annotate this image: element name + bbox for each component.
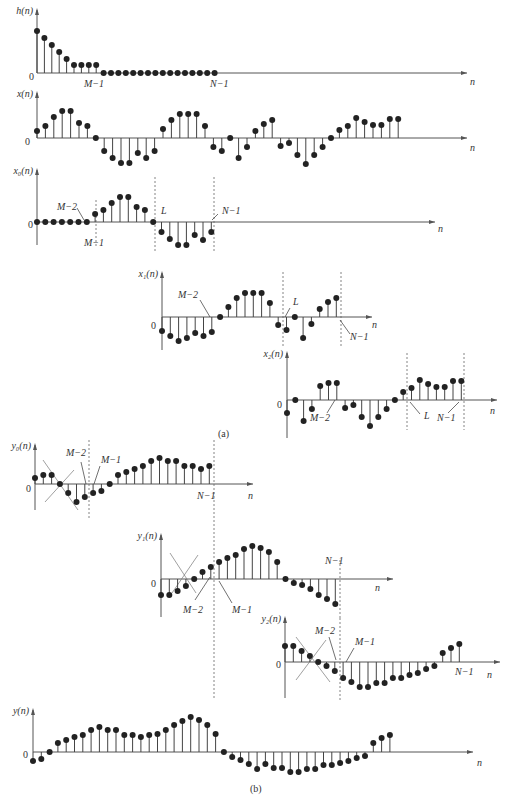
stem-marker	[152, 148, 158, 154]
stem-marker	[74, 499, 80, 505]
stem-marker	[197, 70, 203, 76]
stem-marker	[138, 734, 144, 740]
index-label: N−1	[196, 490, 215, 501]
stem-marker	[208, 229, 214, 235]
stem-marker	[201, 333, 207, 339]
stem-marker	[417, 377, 423, 383]
stem-marker	[234, 295, 240, 301]
stem-marker	[88, 727, 94, 733]
leader-line	[346, 648, 354, 662]
x-axis-label: n	[372, 319, 377, 330]
stem-marker	[118, 160, 124, 166]
stem-marker	[192, 232, 198, 238]
stem-marker	[317, 383, 323, 389]
origin-label: 0	[277, 399, 282, 410]
stem-marker	[56, 49, 62, 55]
stem-marker	[196, 717, 202, 723]
index-label: L	[292, 296, 299, 307]
stem-marker	[425, 381, 431, 387]
stem-marker	[300, 335, 306, 341]
plot-h: h(n)0nM−1N−1	[16, 5, 475, 89]
stem-marker	[448, 645, 454, 651]
y-axis-arrow-icon	[283, 616, 287, 623]
stem-marker	[370, 740, 376, 746]
x-axis-arrow-icon	[461, 71, 467, 75]
stem-marker	[249, 543, 255, 549]
stem-marker	[51, 219, 57, 225]
stem-marker	[93, 135, 99, 141]
stem-marker	[167, 236, 173, 242]
stem-marker	[304, 766, 310, 772]
stem-marker	[390, 675, 396, 681]
stem-marker	[271, 765, 277, 771]
stem-marker	[216, 559, 222, 565]
stem-marker	[117, 194, 123, 200]
index-label: M−2	[177, 289, 198, 300]
stem-marker	[299, 648, 305, 654]
stem-marker	[252, 128, 258, 134]
y-axis-arrow-icon	[33, 443, 37, 450]
stem-marker	[179, 718, 185, 724]
stem-marker	[125, 194, 131, 200]
stem-marker	[30, 758, 36, 764]
stem-marker	[324, 596, 330, 602]
stem-marker	[121, 732, 127, 738]
x-axis-arrow-icon	[247, 482, 253, 486]
stem-marker	[78, 62, 84, 68]
overlap-stem-diagram: h(n)0nM−1N−1x(n)0nx₀(n)0nM−2M−1LN−1x₁(n)…	[0, 0, 508, 806]
leader-line	[200, 300, 210, 317]
stem-marker	[244, 144, 250, 150]
discard-cross	[296, 640, 326, 680]
stem-marker	[213, 731, 219, 737]
stem-marker	[456, 641, 462, 647]
stem-marker	[34, 28, 40, 34]
stem-marker	[155, 731, 161, 737]
stem-marker	[84, 123, 90, 129]
stem-marker	[42, 123, 48, 129]
stem-marker	[167, 333, 173, 339]
stem-marker	[303, 161, 309, 167]
stem-marker	[108, 70, 114, 76]
stem-marker	[236, 155, 242, 161]
stem-marker	[291, 580, 297, 586]
stem-marker	[362, 119, 368, 125]
stem-marker	[192, 330, 198, 336]
stem-marker	[171, 722, 177, 728]
stem-marker	[86, 62, 92, 68]
stem-marker	[329, 762, 335, 768]
x-axis-arrow-icon	[491, 398, 497, 402]
stem-marker	[431, 663, 437, 669]
index-label: N−1	[436, 412, 455, 423]
stem-marker	[32, 475, 38, 481]
stem-marker	[98, 488, 104, 494]
stem-marker	[287, 769, 293, 775]
x-axis-label: n	[477, 757, 482, 768]
stem-marker	[146, 732, 152, 738]
stem-marker	[40, 472, 46, 478]
x-axis-label: n	[470, 142, 475, 153]
stem-marker	[336, 127, 342, 133]
y-axis-label: y₁(n)	[136, 530, 157, 542]
stem-marker	[185, 111, 191, 117]
y-axis-label: x₂(n)	[262, 348, 283, 360]
stem-marker	[227, 135, 233, 141]
index-label: M−2	[314, 625, 335, 636]
y-axis-label: x₀(n)	[12, 165, 33, 177]
stem-marker	[167, 70, 173, 76]
stem-marker	[345, 123, 351, 129]
index-label: M−1	[100, 454, 121, 465]
origin-label: 0	[25, 136, 30, 147]
stem-marker	[325, 299, 331, 305]
stem-marker	[290, 643, 296, 649]
leader-line	[329, 637, 336, 660]
stem-marker	[67, 219, 73, 225]
stem-marker	[160, 126, 166, 132]
stem-marker	[65, 490, 71, 496]
leader-line	[81, 462, 86, 484]
stem-marker	[246, 761, 252, 767]
x-axis-label: n	[487, 669, 492, 680]
x-axis-label: n	[490, 405, 495, 416]
stem-marker	[317, 306, 323, 312]
stem-marker	[96, 724, 102, 730]
stem-marker	[145, 70, 151, 76]
